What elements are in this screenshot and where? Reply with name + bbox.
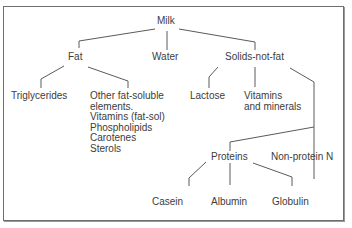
edge-snf-lactose xyxy=(209,67,218,88)
vitamins-line-2: and minerals xyxy=(244,102,301,113)
edge-fat-triglycerides xyxy=(41,66,64,88)
connector-lines xyxy=(0,0,352,228)
edge-snf-proteins xyxy=(230,127,314,151)
node-milk: Milk xyxy=(157,16,175,27)
node-albumin: Albumin xyxy=(211,197,247,208)
edge-milk-snf xyxy=(179,29,255,50)
node-non-protein-n: Non-protein N xyxy=(271,152,333,163)
edge-milk-fat xyxy=(79,29,155,48)
edge-fat-other xyxy=(88,67,128,88)
node-proteins: Proteins xyxy=(211,152,248,163)
node-fat: Fat xyxy=(68,52,82,63)
vitamins-line-1: Vitamins xyxy=(244,91,301,102)
other-line-1: Other fat-soluble xyxy=(90,91,165,102)
edge-proteins-casein xyxy=(189,162,206,186)
node-casein: Casein xyxy=(152,197,183,208)
node-vitamins-minerals: Vitamins and minerals xyxy=(244,91,301,112)
node-other-fat-soluble: Other fat-soluble elements. Vitamins (fa… xyxy=(90,91,165,154)
node-triglycerides: Triglycerides xyxy=(11,91,67,102)
node-water: Water xyxy=(152,52,178,63)
other-line-3: Vitamins (fat-sol) xyxy=(90,112,165,123)
other-line-5: Carotenes xyxy=(90,133,165,144)
node-solids-not-fat: Solids-not-fat xyxy=(225,52,284,63)
edge-proteins-globulin xyxy=(253,163,292,186)
node-globulin: Globulin xyxy=(272,197,309,208)
node-lactose: Lactose xyxy=(190,91,225,102)
other-line-6: Sterols xyxy=(90,144,165,155)
